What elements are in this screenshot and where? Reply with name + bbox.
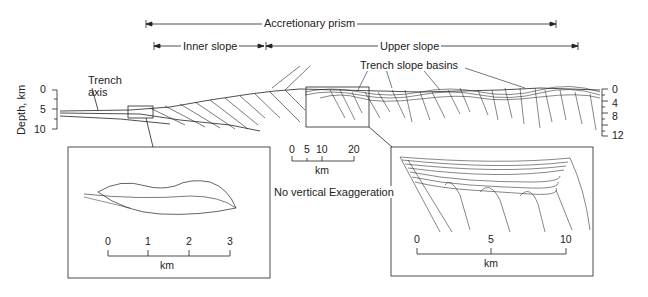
right-depth-tick: 4: [612, 98, 618, 109]
main-scale-tick: 20: [348, 144, 360, 155]
inset-left-scale-unit: km: [160, 260, 174, 271]
trench-axis-label-line1: Trench: [86, 74, 124, 86]
no-vertical-exaggeration-note: No vertical Exaggeration: [272, 186, 396, 198]
inset-right-scale-tick: 5: [488, 234, 494, 245]
inner-slope-label: Inner slope: [181, 40, 239, 52]
left-depth-tick: 0: [40, 84, 46, 95]
detail-box-left: [128, 106, 153, 118]
inset-right-scale-tick: 0: [414, 234, 420, 245]
main-scale-tick: 5: [304, 144, 310, 155]
right-depth-tick: 8: [612, 111, 618, 122]
inset-right-scale-tick: 10: [560, 234, 572, 245]
depth-axis-label: Depth, km: [15, 83, 27, 137]
seafloor-profile: [60, 88, 600, 111]
main-scale-unit: km: [315, 165, 329, 176]
left-depth-tick: 10: [34, 124, 46, 135]
inset-left-scale-tick: 3: [227, 236, 233, 247]
inset-left-scale-tick: 2: [186, 236, 192, 247]
accretionary-prism-label: Accretionary prism: [262, 17, 357, 29]
right-depth-tick: 0: [612, 84, 618, 95]
main-scale-tick: 0: [289, 144, 295, 155]
inset-right-scale-unit: km: [484, 258, 498, 269]
main-scale-tick: 10: [316, 144, 328, 155]
right-depth-tick: 12: [612, 130, 624, 141]
left-depth-tick: 5: [40, 104, 46, 115]
trench-slope-basins-label: Trench slope basins: [358, 59, 460, 71]
inset-left-scale-tick: 0: [105, 236, 111, 247]
inset-left-scale-tick: 1: [145, 236, 151, 247]
upper-slope-label: Upper slope: [378, 40, 441, 52]
trench-axis-label-line2: axis: [86, 86, 110, 98]
